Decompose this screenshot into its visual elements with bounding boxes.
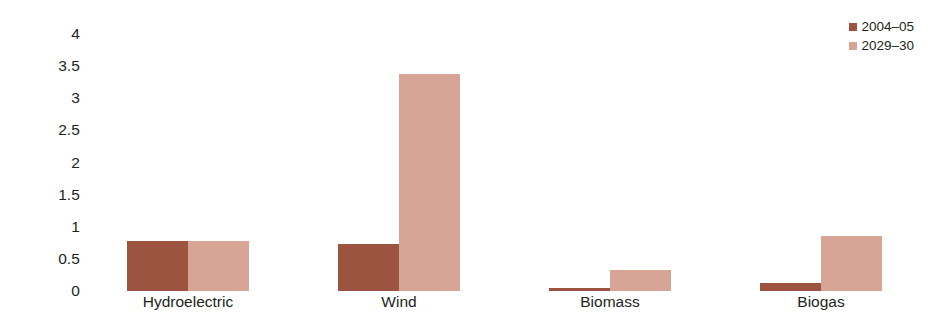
chart-legend: 2004–052029–30 xyxy=(849,19,914,53)
y-axis-tick-label: 2 xyxy=(71,155,80,171)
y-axis-tick-label: 0.5 xyxy=(58,251,80,267)
legend-label: 2029–30 xyxy=(861,38,914,53)
y-axis-tick-label: 1 xyxy=(71,219,80,235)
bar-pair xyxy=(760,29,882,291)
y-axis-tick-label: 4 xyxy=(71,26,80,42)
bar-hydroelectric-series-a[interactable] xyxy=(127,241,188,291)
x-axis-category-label: Wind xyxy=(338,293,460,311)
bar-biomass-series-b[interactable] xyxy=(610,270,671,291)
bar-hydroelectric-series-b[interactable] xyxy=(188,241,249,291)
bar-pair xyxy=(338,29,460,291)
x-axis-category-label: Biomass xyxy=(549,293,671,311)
legend-item[interactable]: 2004–05 xyxy=(849,19,914,34)
bar-biomass-series-a[interactable] xyxy=(549,288,610,291)
bar-pair xyxy=(549,29,671,291)
category-group: Hydroelectric xyxy=(127,29,249,291)
category-group: Biomass xyxy=(549,29,671,291)
plot-area: HydroelectricWindBiomassBiogas xyxy=(92,0,932,336)
legend-swatch-icon xyxy=(849,42,857,50)
category-group: Biogas xyxy=(760,29,882,291)
y-axis-tick-label: 3 xyxy=(71,91,80,107)
legend-item[interactable]: 2029–30 xyxy=(849,38,914,53)
y-axis-tick-label: 3.5 xyxy=(58,58,80,74)
y-axis-tick-label: 1.5 xyxy=(58,187,80,203)
legend-swatch-icon xyxy=(849,23,857,31)
bar-biogas-series-b[interactable] xyxy=(821,236,882,291)
y-axis-tick-label: 0 xyxy=(71,283,80,299)
bar-wind-series-b[interactable] xyxy=(399,74,460,291)
legend-label: 2004–05 xyxy=(861,19,914,34)
category-group: Wind xyxy=(338,29,460,291)
bar-biogas-series-a[interactable] xyxy=(760,283,821,291)
x-axis-category-label: Hydroelectric xyxy=(127,293,249,311)
bar-chart: 00.511.522.533.54 HydroelectricWindBioma… xyxy=(0,0,932,336)
bar-pair xyxy=(127,29,249,291)
y-axis-tick-label: 2.5 xyxy=(58,123,80,139)
y-axis: 00.511.522.533.54 xyxy=(0,0,92,336)
x-axis-category-label: Biogas xyxy=(760,293,882,311)
bar-wind-series-a[interactable] xyxy=(338,244,399,291)
